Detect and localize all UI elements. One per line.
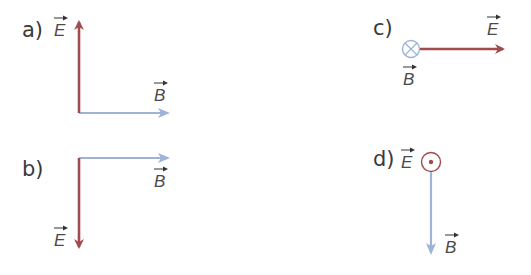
E-symbol: E (54, 231, 65, 250)
vector-arrow-icon (401, 147, 415, 153)
panel-c-E-label: E (487, 20, 498, 40)
panel-d-label: d) (373, 147, 395, 171)
vector-arrow-icon (403, 64, 417, 70)
panel-d-B-label: B (445, 238, 456, 258)
panel-a-E-label: E (54, 21, 65, 41)
B-symbol: B (403, 70, 414, 89)
E-symbol: E (487, 20, 498, 39)
panel-d-E-label: E (401, 153, 412, 173)
panel-a-label: a) (22, 18, 43, 42)
vector-arrow-icon (154, 80, 168, 86)
B-symbol: B (154, 172, 165, 191)
vector-arrow-icon (487, 14, 501, 20)
panel-b-B-label: B (154, 172, 165, 192)
panel-a-B-label: B (154, 86, 165, 106)
panel-c-B-label: B (403, 70, 414, 90)
panel-b-label: b) (22, 157, 44, 181)
vector-arrow-icon (54, 225, 68, 231)
panel-c-label: c) (373, 16, 393, 40)
B-symbol: B (154, 86, 165, 105)
vector-arrow-icon (445, 232, 459, 238)
panel-c-vectors (403, 41, 504, 58)
vector-arrow-icon (54, 15, 68, 21)
B-into-page-icon (403, 41, 420, 58)
B-symbol: B (445, 238, 456, 257)
E-symbol: E (401, 153, 412, 172)
panel-d-vectors (422, 153, 441, 254)
E-out-of-page-icon (422, 153, 441, 172)
panel-b-E-label: E (54, 231, 65, 251)
vector-arrow-icon (154, 166, 168, 172)
E-symbol: E (54, 21, 65, 40)
